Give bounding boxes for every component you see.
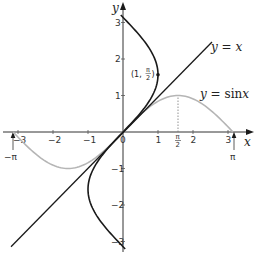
x-axis-label: x — [244, 135, 251, 149]
svg-text:2: 2 — [191, 135, 197, 145]
half-pi-tick-label: π 2 — [175, 133, 181, 149]
point-label: (1, π 2 ) — [131, 66, 155, 82]
svg-text:π: π — [146, 66, 150, 74]
svg-text:1: 1 — [115, 91, 121, 101]
svg-text:3: 3 — [115, 18, 121, 28]
y-axis-label: y — [111, 1, 119, 15]
origin-label: 0 — [120, 135, 126, 145]
svg-text:−π: −π — [4, 152, 18, 162]
svg-text:): ) — [152, 70, 155, 79]
svg-text:2: 2 — [115, 54, 121, 64]
svg-text:(1,: (1, — [131, 70, 142, 79]
svg-text:−1: −1 — [111, 164, 124, 174]
svg-text:−2: −2 — [111, 200, 124, 210]
svg-text:π: π — [230, 152, 236, 162]
point-1-half-pi — [156, 73, 160, 77]
svg-text:−1: −1 — [83, 135, 96, 145]
svg-text:2: 2 — [146, 74, 150, 82]
function-graph: x y −3−2−1123 −3−2−1123 0 π 2 π −π (1, π… — [0, 0, 257, 254]
svg-text:2: 2 — [176, 141, 180, 149]
svg-text:1: 1 — [156, 135, 162, 145]
svg-text:3: 3 — [226, 135, 232, 145]
svg-text:−2: −2 — [48, 135, 61, 145]
sin-curve-label: y = sinx — [199, 87, 249, 101]
svg-text:π: π — [176, 133, 181, 141]
identity-line-label: y = x — [210, 40, 242, 54]
